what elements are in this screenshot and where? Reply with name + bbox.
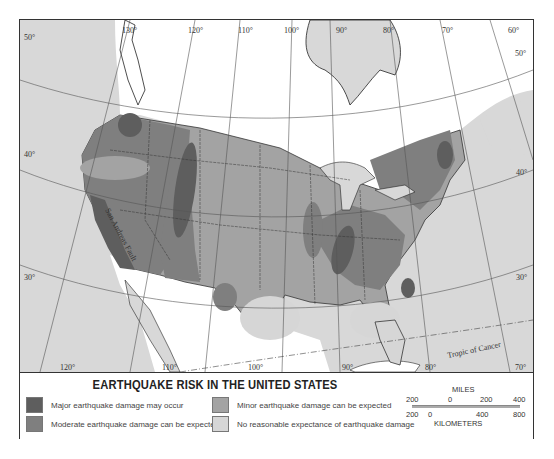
lon-label-bottom-90: 90° <box>342 363 353 372</box>
lon-label-70: 70° <box>442 26 453 35</box>
lon-label-120: 120° <box>188 26 203 35</box>
lon-label-100: 100° <box>284 26 299 35</box>
map-frame: 130° 120° 110° 100° 90° 80° 70° 60° 120°… <box>19 19 534 439</box>
scale-bar: MILES 200 0 200 400 200 0 400 800 KILOME… <box>404 385 529 435</box>
legend-panel: EARTHQUAKE RISK IN THE UNITED STATES Maj… <box>20 372 533 439</box>
legend-swatch-major <box>26 397 43 413</box>
none-zone-south-texas <box>240 296 300 340</box>
legend-label-moderate: Moderate earthquake damage can be expect… <box>51 420 219 429</box>
scale-km-tick-1: 0 <box>428 410 432 419</box>
scale-line <box>412 405 520 408</box>
major-zone-charleston <box>401 278 415 298</box>
lon-label-80: 80° <box>383 26 394 35</box>
legend-label-none: No reasonable expectance of earthquake d… <box>237 420 414 429</box>
lon-label-bottom-110: 110° <box>162 363 177 372</box>
legend-swatch-minor <box>212 397 229 413</box>
lat-label-right-50: 50° <box>515 49 526 58</box>
map-area: 130° 120° 110° 100° 90° 80° 70° 60° 120°… <box>20 20 533 372</box>
scale-km-tick-2: 400 <box>476 410 489 419</box>
legend-item-none: No reasonable expectance of earthquake d… <box>212 416 414 432</box>
lon-label-bottom-80: 80° <box>425 363 436 372</box>
lat-label-left-40: 40° <box>24 150 35 159</box>
lon-label-60: 60° <box>508 26 519 35</box>
lon-label-110: 110° <box>238 26 253 35</box>
legend-swatch-none <box>212 416 229 432</box>
scale-miles-label: MILES <box>452 385 475 394</box>
lat-label-left-50: 50° <box>24 33 35 42</box>
major-zone-puget-sound <box>118 113 142 137</box>
scale-km-tick-0: 200 <box>406 410 419 419</box>
lon-label-bottom-100: 100° <box>248 363 263 372</box>
map-title: EARTHQUAKE RISK IN THE UNITED STATES <box>47 377 382 392</box>
legend-label-major: Major earthquake damage may occur <box>51 401 184 410</box>
scale-mile-tick-0: 200 <box>406 395 419 404</box>
legend-item-minor: Minor earthquake damage can be expected <box>212 397 391 413</box>
minor-zone-oregon <box>80 156 150 180</box>
lon-label-bottom-70: 70° <box>515 363 526 372</box>
us-earthquake-map: 130° 120° 110° 100° 90° 80° 70° 60° 120°… <box>20 20 533 372</box>
scale-mile-tick-2: 200 <box>480 395 493 404</box>
lat-label-right-30: 30° <box>516 273 527 282</box>
major-zone-new-england <box>437 141 453 169</box>
scale-km-label: KILOMETERS <box>434 419 482 428</box>
lon-label-90: 90° <box>336 26 347 35</box>
scale-mile-tick-1: 0 <box>448 395 452 404</box>
lon-label-bottom-120: 120° <box>60 363 75 372</box>
lon-label-130: 130° <box>122 26 137 35</box>
scale-km-tick-3: 800 <box>513 410 526 419</box>
scale-mile-tick-3: 400 <box>513 395 526 404</box>
lat-label-right-40: 40° <box>516 168 527 177</box>
legend-item-moderate: Moderate earthquake damage can be expect… <box>26 416 219 432</box>
lat-label-left-30: 30° <box>24 273 35 282</box>
legend-label-minor: Minor earthquake damage can be expected <box>237 401 391 410</box>
legend-swatch-moderate <box>26 416 43 432</box>
legend-item-major: Major earthquake damage may occur <box>26 397 184 413</box>
